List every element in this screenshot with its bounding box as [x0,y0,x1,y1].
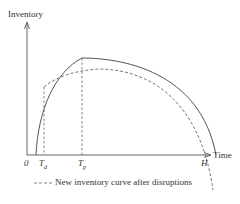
h-label: H [201,158,208,168]
y-axis-label: Inventory [8,9,43,19]
td-sub: d [44,164,47,170]
diagram-canvas [0,0,240,204]
legend-text: New inventory curve after disruptions [55,177,192,187]
inventory-diagram: Inventory Time 0 Td Tp H New inventory c… [0,0,240,204]
tp-sub: p [83,164,86,170]
td-label: Td [39,158,47,170]
tp-label: Tp [78,158,86,170]
origin-label: 0 [24,158,29,168]
x-axis-label: Time [213,150,232,160]
disrupted-inventory-curve [44,69,213,190]
